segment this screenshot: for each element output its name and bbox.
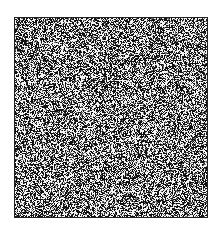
faint-top-text bbox=[14, 4, 209, 16]
noise-texture bbox=[15, 18, 207, 217]
faint-bottom-text bbox=[14, 218, 209, 228]
noise-square bbox=[14, 17, 208, 218]
